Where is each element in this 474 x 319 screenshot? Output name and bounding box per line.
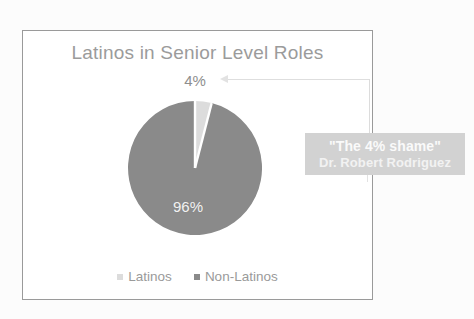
- leader-arrowhead-icon: [220, 75, 228, 83]
- leader-line-vertical: [369, 79, 370, 136]
- chart-title: Latinos in Senior Level Roles: [22, 42, 373, 64]
- legend-item-latinos[interactable]: Latinos: [117, 269, 172, 284]
- legend-item-non-latinos[interactable]: Non-Latinos: [194, 269, 278, 284]
- annotation-callout[interactable]: "The 4% shame" Dr. Robert Rodriguez: [305, 133, 465, 175]
- legend-label-non-latinos: Non-Latinos: [205, 269, 278, 284]
- legend-label-latinos: Latinos: [128, 269, 172, 284]
- chart-legend: Latinos Non-Latinos: [22, 269, 373, 284]
- legend-swatch-icon-non-latinos: [194, 274, 200, 280]
- annotation-quote: "The 4% shame": [329, 138, 441, 154]
- pie-label-latinos: 4%: [168, 72, 222, 89]
- annotation-attribution: Dr. Robert Rodriguez: [319, 155, 451, 170]
- leader-line-horizontal: [228, 79, 370, 80]
- pie-label-non-latinos: 96%: [158, 198, 218, 215]
- legend-swatch-icon-latinos: [117, 274, 123, 280]
